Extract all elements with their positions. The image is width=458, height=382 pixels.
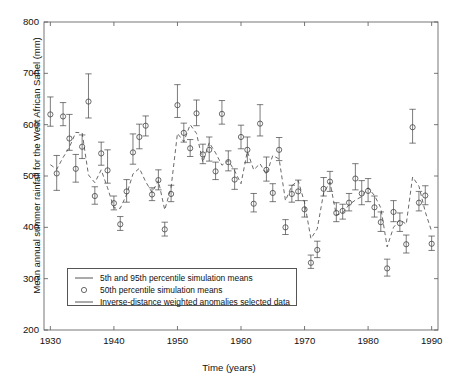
- y-tick-label: 600: [4, 119, 39, 130]
- y-tick-label: 700: [4, 67, 39, 78]
- chart-figure: Mean annual summer rainfall for the West…: [0, 0, 458, 382]
- legend-item-percentile-band: 5th and 95th percentile simulation means: [72, 272, 253, 284]
- y-tick-label: 300: [4, 273, 39, 284]
- legend-line-icon: [72, 293, 96, 311]
- x-tick-label: 1990: [412, 335, 452, 346]
- x-tick-label: 1980: [348, 335, 388, 346]
- legend-label: 5th and 95th percentile simulation means: [100, 273, 253, 283]
- plot-canvas: [0, 0, 458, 382]
- x-tick-label: 1940: [94, 335, 134, 346]
- y-tick-label: 800: [4, 16, 39, 27]
- y-tick-label: 400: [4, 221, 39, 232]
- legend-box: 5th and 95th percentile simulation means…: [67, 268, 297, 306]
- y-tick-label: 200: [4, 324, 39, 335]
- legend-label: Inverse-distance weighted anomalies sele…: [100, 297, 290, 307]
- legend-label: 50th percentile simulation means: [100, 285, 222, 295]
- x-tick-label: 1930: [30, 335, 70, 346]
- x-tick-label: 1960: [221, 335, 261, 346]
- x-tick-label: 1970: [285, 335, 325, 346]
- y-tick-label: 500: [4, 170, 39, 181]
- legend-item-observed-line: Inverse-distance weighted anomalies sele…: [72, 296, 290, 308]
- x-tick-label: 1950: [157, 335, 197, 346]
